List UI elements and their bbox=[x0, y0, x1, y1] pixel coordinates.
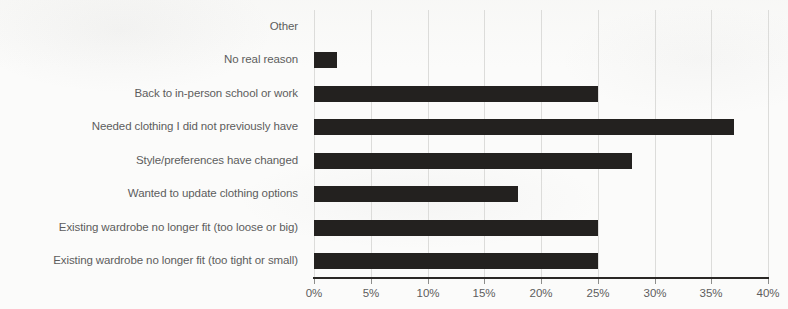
x-tick-label: 35% bbox=[699, 286, 722, 300]
category-label: No real reason bbox=[0, 53, 298, 66]
x-tick-label: 40% bbox=[756, 286, 779, 300]
x-tick-label: 10% bbox=[416, 286, 439, 300]
bar bbox=[314, 220, 598, 236]
gridline-15pct bbox=[484, 10, 485, 278]
gridline-35pct bbox=[711, 10, 712, 278]
x-tick-label: 15% bbox=[472, 286, 495, 300]
x-tick-label: 20% bbox=[529, 286, 552, 300]
x-tick-mark bbox=[598, 279, 599, 284]
x-tick-mark bbox=[484, 279, 485, 284]
category-label: Style/preferences have changed bbox=[0, 154, 298, 167]
bar bbox=[314, 153, 632, 169]
x-tick-mark bbox=[768, 279, 769, 284]
category-label: Existing wardrobe no longer fit (too loo… bbox=[0, 221, 298, 234]
x-tick-mark bbox=[314, 279, 315, 284]
bar bbox=[314, 186, 518, 202]
x-tick-mark bbox=[541, 279, 542, 284]
x-tick-mark bbox=[655, 279, 656, 284]
category-label: Back to in-person school or work bbox=[0, 87, 298, 100]
x-tick-label: 30% bbox=[643, 286, 666, 300]
x-tick-mark bbox=[428, 279, 429, 284]
category-label: Other bbox=[0, 20, 298, 33]
bar bbox=[314, 119, 734, 135]
category-label: Existing wardrobe no longer fit (too tig… bbox=[0, 254, 298, 267]
x-tick-label: 25% bbox=[586, 286, 609, 300]
category-label: Wanted to update clothing options bbox=[0, 187, 298, 200]
gridline-0pct bbox=[314, 10, 315, 278]
bar bbox=[314, 253, 598, 269]
x-tick-label: 0% bbox=[306, 286, 323, 300]
x-tick-mark bbox=[711, 279, 712, 284]
gridline-10pct bbox=[428, 10, 429, 278]
x-tick-label: 5% bbox=[363, 286, 380, 300]
gridline-20pct bbox=[541, 10, 542, 278]
category-axis: OtherNo real reasonBack to in-person sch… bbox=[0, 0, 306, 309]
gridline-25pct bbox=[598, 10, 599, 278]
gridline-40pct bbox=[768, 10, 769, 278]
x-tick-mark bbox=[371, 279, 372, 284]
gridline-5pct bbox=[371, 10, 372, 278]
bar-chart: OtherNo real reasonBack to in-person sch… bbox=[0, 0, 788, 309]
value-axis: 0%5%10%15%20%25%30%35%40% bbox=[0, 286, 788, 306]
plot-area bbox=[314, 10, 768, 278]
category-label: Needed clothing I did not previously hav… bbox=[0, 120, 298, 133]
gridline-30pct bbox=[655, 10, 656, 278]
bar bbox=[314, 52, 337, 68]
bar bbox=[314, 86, 598, 102]
